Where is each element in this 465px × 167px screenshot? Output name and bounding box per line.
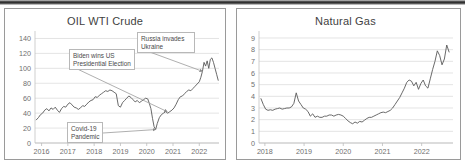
annotation-line-2: Pandemic [71, 133, 99, 141]
x-tick-label: 2019 [291, 147, 317, 156]
x-tick-label: 2018 [252, 147, 278, 156]
screenshot-root: OIL WTI Crude 02040608010012014020162017… [0, 0, 465, 167]
x-tick-label: 2021 [160, 147, 186, 156]
y-tick-label: 40 [9, 109, 31, 118]
chart-annotation-covid: Covid-19Pandemic [67, 122, 103, 143]
x-tick-label: 2021 [369, 147, 395, 156]
y-tick-label: 5 [233, 80, 255, 89]
annotation-line-1: Russia invades [141, 35, 191, 43]
chart-annotation-russia: Russia invadesUkraine [137, 32, 195, 53]
chart-annotation-biden: Biden wins USPresidential Election [69, 49, 135, 70]
chart-panel-oil: OIL WTI Crude 02040608010012014020162017… [4, 8, 226, 160]
annotation-line-2: Ukraine [141, 43, 191, 51]
y-tick-label: 7 [233, 57, 255, 66]
y-tick-label: 1 [233, 127, 255, 136]
y-tick-label: 140 [9, 34, 31, 43]
x-tick-label: 2017 [55, 147, 81, 156]
x-tick-label: 2022 [186, 147, 212, 156]
x-tick-label: 2022 [409, 147, 435, 156]
y-tick-label: 20 [9, 124, 31, 133]
y-tick-label: 60 [9, 94, 31, 103]
y-tick-label: 8 [233, 45, 255, 54]
x-tick-label: 2020 [330, 147, 356, 156]
chart-plot-gas [237, 9, 460, 159]
x-tick-label: 2016 [29, 147, 55, 156]
x-tick-label: 2019 [107, 147, 133, 156]
y-tick-label: 9 [233, 34, 255, 43]
y-tick-label: 80 [9, 79, 31, 88]
window-top-band [0, 0, 465, 5]
y-tick-label: 6 [233, 69, 255, 78]
annotation-line-1: Biden wins US [73, 52, 131, 60]
annotation-line-1: Covid-19 [71, 125, 99, 133]
y-tick-label: 2 [233, 115, 255, 124]
x-tick-label: 2018 [81, 147, 107, 156]
y-tick-label: 100 [9, 64, 31, 73]
y-tick-label: 120 [9, 49, 31, 58]
y-tick-label: 4 [233, 92, 255, 101]
chart-panel-gas: Natural Gas 0123456789201820192020202120… [236, 8, 461, 160]
annotation-line-2: Presidential Election [73, 60, 131, 68]
x-tick-label: 2020 [134, 147, 160, 156]
y-tick-label: 3 [233, 104, 255, 113]
